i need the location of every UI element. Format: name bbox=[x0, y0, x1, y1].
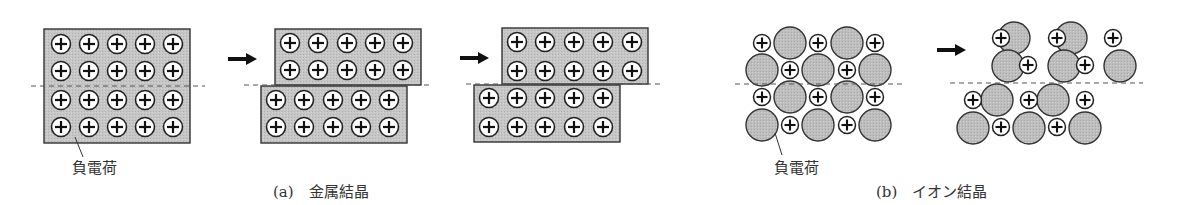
metal-stage-1: 負電荷 bbox=[31, 29, 205, 177]
right-arrow-icon bbox=[460, 52, 489, 64]
caption-b: (b) イオン結晶 bbox=[876, 183, 987, 201]
leader-line bbox=[775, 133, 782, 155]
negative-charge-label: 負電荷 bbox=[72, 159, 117, 177]
metal-stage-2 bbox=[244, 29, 433, 143]
caption-a: (a) 金属結晶 bbox=[273, 183, 369, 201]
ionic-stage-2 bbox=[950, 22, 1143, 144]
negative-charge-label: 負電荷 bbox=[774, 159, 819, 177]
panel-b-ionic-crystal: 負電荷 (b) イオン結晶 bbox=[735, 22, 1143, 201]
panel-a-metal-crystal: 負電荷 bbox=[31, 28, 661, 201]
right-arrow-icon bbox=[937, 44, 966, 56]
metal-stage-3 bbox=[466, 28, 661, 142]
ionic-stage-1: 負電荷 bbox=[735, 27, 906, 177]
right-arrow-icon bbox=[228, 53, 257, 65]
crystal-slip-diagram: 負電荷 bbox=[0, 0, 1181, 205]
